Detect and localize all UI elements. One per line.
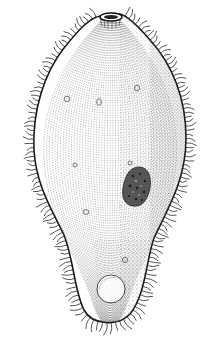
contractile-vacuole <box>97 275 125 303</box>
ciliate-illustration <box>0 0 220 339</box>
